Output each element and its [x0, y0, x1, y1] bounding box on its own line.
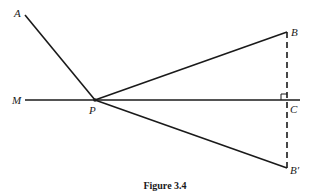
label-P: P — [88, 104, 96, 116]
label-Bprime: B′ — [290, 164, 300, 176]
segment-PBprime — [95, 100, 287, 168]
point-P-dot — [93, 98, 97, 102]
figure-caption: Figure 3.4 — [143, 180, 186, 191]
segment-AP — [25, 15, 95, 100]
label-C: C — [290, 103, 298, 115]
reflection-diagram: A M P B C B′ Figure 3.4 — [0, 0, 309, 192]
right-angle-marker — [281, 94, 287, 100]
label-A: A — [13, 7, 21, 19]
label-M: M — [11, 94, 22, 106]
segment-PB — [95, 32, 287, 100]
label-B: B — [291, 26, 298, 38]
